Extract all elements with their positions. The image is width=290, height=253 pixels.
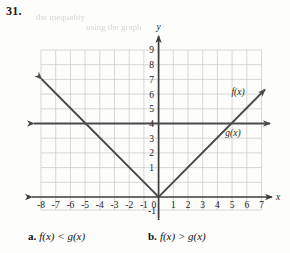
coordinate-graph: -8 -7 -6 -5 -4 -3 -2 -1 0 1 2 3 4 5 6 7 …	[0, 14, 290, 220]
x-tick-label: 1	[171, 200, 176, 210]
x-tick-label: -7	[52, 200, 60, 210]
answer-expression-b: f(x) > g(x)	[160, 230, 206, 242]
answer-key-a: a.	[28, 230, 36, 242]
answer-option-b: b.f(x) > g(x)	[148, 230, 206, 242]
x-tick-label: 6	[244, 200, 249, 210]
answer-key-b: b.	[148, 230, 157, 242]
y-tick-label: 1	[149, 163, 154, 173]
answer-option-a: a.f(x) < g(x)	[28, 230, 85, 242]
y-tick-label: 6	[149, 90, 154, 100]
x-tick-label: -2	[125, 200, 133, 210]
y-axis-label: y	[155, 22, 161, 32]
worksheet-page: 31. the inequality using the graph	[0, 0, 290, 253]
x-tick-label: -6	[66, 200, 74, 210]
x-axis-label: x	[275, 192, 281, 202]
y-tick-label: 3	[149, 134, 154, 144]
curve-label-g: g(x)	[225, 128, 240, 139]
answer-expression-a: f(x) < g(x)	[39, 230, 85, 242]
x-tick-label: 4	[215, 200, 220, 210]
graph-svg: -8 -7 -6 -5 -4 -3 -2 -1 0 1 2 3 4 5 6 7 …	[0, 14, 290, 220]
x-tick-label: -3	[111, 200, 119, 210]
x-tick-label: -4	[96, 200, 104, 210]
x-tick-label: 7	[259, 200, 264, 210]
x-tick-label: 3	[200, 200, 205, 210]
answer-options: a.f(x) < g(x) b.f(x) > g(x)	[0, 228, 290, 250]
y-tick-label: 7	[149, 75, 154, 85]
x-tick-label: 5	[230, 200, 235, 210]
curve-label-f: f(x)	[231, 87, 244, 98]
y-tick-label: 8	[149, 60, 154, 70]
x-tick-label: -8	[37, 200, 45, 210]
y-tick-label: 4	[149, 119, 154, 129]
x-tick-label: -5	[81, 200, 89, 210]
y-tick-label: 5	[149, 104, 154, 114]
y-tick-label: 9	[149, 45, 154, 55]
x-tick-label: -1	[140, 200, 148, 210]
x-tick-label: 2	[186, 200, 191, 210]
y-tick-label: 2	[149, 148, 154, 158]
y-tick-label: -1	[148, 206, 156, 216]
